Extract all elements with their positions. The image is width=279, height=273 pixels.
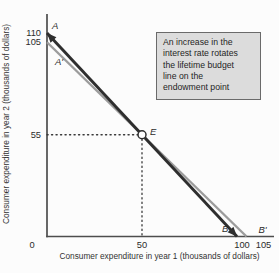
x-tick-50: 50 (137, 240, 147, 250)
y-tick-55: 55 (31, 130, 41, 140)
y-tick-105: 105 (25, 37, 41, 47)
point-label-B: B (222, 223, 229, 234)
point-label-A-prime: A' (54, 56, 64, 67)
point-label-B-prime: B' (259, 224, 268, 235)
origin-tick-label: 0 (29, 240, 34, 250)
callout-line-2: interest rate rotates (163, 48, 255, 59)
y-axis-title: Consumer expenditure in year 2 (thousand… (1, 11, 11, 237)
callout-line-5: endowment point (163, 82, 255, 93)
budget-line-figure: AA'EBB'11010555501001050 Consumer expend… (0, 0, 279, 273)
callout-line-4: line on the (163, 71, 255, 82)
point-label-A: A (51, 20, 58, 31)
callout-line-3: the lifetime budget (163, 60, 255, 71)
x-tick-105: 105 (256, 240, 272, 250)
x-axis-title: Consumer expenditure in year 1 (thousand… (40, 251, 279, 261)
callout-line-1: An increase in the (163, 37, 255, 48)
point-label-E: E (150, 126, 157, 137)
endowment-point-marker (138, 131, 146, 139)
x-tick-100: 100 (234, 240, 250, 250)
annotation-callout: An increase in theinterest rate rotatest… (156, 32, 261, 100)
